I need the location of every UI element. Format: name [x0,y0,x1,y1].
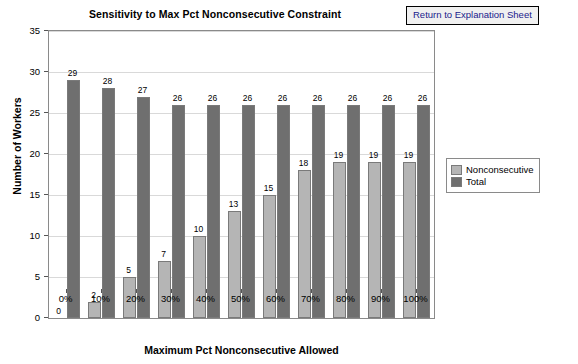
bar-value-label-nonconsecutive: 19 [327,150,350,160]
bar-value-label-nonconsecutive: 15 [257,183,280,193]
y-axis-tick-label: 5 [16,271,40,282]
bar-value-label-total: 26 [236,93,259,103]
bar-value-label-nonconsecutive: 19 [397,150,420,160]
legend-label-nonconsecutive: Nonconsecutive [466,164,534,175]
bar-value-label-total: 26 [376,93,399,103]
x-axis-tick-mark [346,289,347,293]
bar-total [382,105,395,318]
bar-value-label-total: 26 [271,93,294,103]
bar-total [347,105,360,318]
bar-value-label-total: 26 [201,93,224,103]
bar-total [67,80,80,318]
bar-value-label-nonconsecutive: 7 [152,249,175,259]
x-axis-tick-mark [416,289,417,293]
y-axis-title: Number of Workers [11,51,23,241]
bar-total [207,105,220,318]
plot-inner [49,31,434,318]
x-axis-tick-mark [381,289,382,293]
gridline [49,31,434,32]
legend-swatch-nonconsecutive [451,165,462,175]
bar-value-label-nonconsecutive: 19 [362,150,385,160]
x-axis-tick-mark [206,289,207,293]
y-axis-tick-label: 0 [16,312,40,323]
y-axis-tick-mark [44,194,48,195]
bar-total [312,105,325,318]
x-axis-tick-label: 80% [326,293,366,304]
bar-nonconsecutive [88,302,101,318]
bar-value-label-total: 27 [131,85,154,95]
x-axis-tick-label: 100% [396,293,436,304]
chart-page: Sensitivity to Max Pct Nonconsecutive Co… [0,0,578,364]
plot-area [48,30,435,319]
x-axis-tick-label: 30% [151,293,191,304]
y-axis-tick-label: 35 [16,25,40,36]
x-axis-tick-mark [101,289,102,293]
y-axis-tick-label: 10 [16,230,40,241]
y-axis-tick-mark [44,30,48,31]
x-axis-tick-mark [171,289,172,293]
y-axis-tick-mark [44,153,48,154]
x-axis-title: Maximum Pct Nonconsecutive Allowed [48,344,435,356]
bar-value-label-nonconsecutive: 0 [47,306,70,316]
x-axis-tick-label: 20% [116,293,156,304]
y-axis-tick-mark [44,112,48,113]
x-axis-tick-mark [276,289,277,293]
bar-value-label-total: 29 [61,68,84,78]
bar-value-label-total: 26 [411,93,434,103]
page-title: Sensitivity to Max Pct Nonconsecutive Co… [0,8,430,20]
x-axis-tick-label: 50% [221,293,261,304]
bar-value-label-nonconsecutive: 13 [222,199,245,209]
bar-value-label-total: 26 [306,93,329,103]
bar-value-label-total: 26 [166,93,189,103]
y-axis-tick-label: 30 [16,66,40,77]
x-axis-tick-mark [241,289,242,293]
y-axis-tick-label: 20 [16,148,40,159]
legend-item: Nonconsecutive [451,164,534,175]
bar-value-label-total: 28 [96,76,119,86]
bar-total [242,105,255,318]
bar-total [417,105,430,318]
legend-item: Total [451,176,534,187]
y-axis-tick-mark [44,235,48,236]
gridline [49,72,434,73]
bar-total [137,97,150,318]
bar-value-label-nonconsecutive: 18 [292,158,315,168]
y-axis-tick-label: 15 [16,189,40,200]
bar-total [172,105,185,318]
bar-total [102,88,115,318]
x-axis-tick-mark [136,289,137,293]
legend-label-total: Total [466,176,486,187]
x-axis-tick-label: 0% [46,293,86,304]
x-axis-tick-mark [66,289,67,293]
x-axis-tick-label: 10% [81,293,121,304]
x-axis-tick-label: 90% [361,293,401,304]
x-axis-tick-label: 70% [291,293,331,304]
y-axis-tick-mark [44,317,48,318]
y-axis-tick-label: 25 [16,107,40,118]
x-axis-tick-label: 40% [186,293,226,304]
x-axis-tick-mark [311,289,312,293]
x-axis-tick-label: 60% [256,293,296,304]
bar-nonconsecutive [158,261,171,318]
bar-value-label-nonconsecutive: 5 [117,265,140,275]
bar-value-label-nonconsecutive: 10 [187,224,210,234]
bar-total [277,105,290,318]
bar-nonconsecutive [193,236,206,318]
legend: Nonconsecutive Total [446,158,540,193]
legend-swatch-total [451,177,462,187]
return-to-explanation-sheet-button[interactable]: Return to Explanation Sheet [406,6,539,25]
y-axis-tick-mark [44,71,48,72]
bar-value-label-total: 26 [341,93,364,103]
y-axis-tick-mark [44,276,48,277]
